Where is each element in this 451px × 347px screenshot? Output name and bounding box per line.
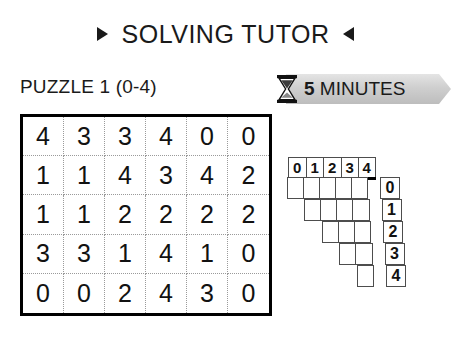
grid-cell-r0-c0[interactable]: 4 [23, 117, 64, 156]
grid-cell-r1-c4[interactable]: 4 [187, 156, 228, 195]
grid-cell-r0-c5[interactable]: 0 [228, 117, 269, 156]
tally-row-label-0: 0 [380, 177, 400, 199]
grid-cell-r3-c2[interactable]: 1 [105, 235, 146, 274]
tally-col-header-0: 0 [288, 157, 306, 177]
tally-cell-r3-c3[interactable] [339, 243, 357, 265]
tally-row-1[interactable]: 1 [306, 199, 402, 221]
tally-cell-r1-c4[interactable] [352, 199, 370, 221]
tally-cell-r2-c4[interactable] [354, 221, 372, 243]
tally-cell-r1-c2[interactable] [320, 199, 338, 221]
tally-row-label-4: 4 [386, 265, 406, 287]
grid-cell-r0-c4[interactable]: 0 [187, 117, 228, 156]
grid-cell-r3-c4[interactable]: 1 [187, 235, 228, 274]
grid-cell-r0-c2[interactable]: 3 [105, 117, 146, 156]
timer-badge: 5 MINUTES [274, 74, 451, 104]
grid-cell-r2-c1[interactable]: 1 [64, 195, 105, 234]
tally-cell-r4-c4[interactable] [357, 265, 375, 287]
tally-row-label-1: 1 [382, 199, 402, 221]
triangle-right-icon [97, 27, 108, 41]
tally-row-2[interactable]: 2 [323, 221, 403, 243]
page-header: SOLVING TUTOR [0, 17, 451, 51]
puzzle-grid[interactable]: 433400114342112222331410002430 [20, 114, 272, 316]
grid-cell-r2-c2[interactable]: 2 [105, 195, 146, 234]
grid-cell-r2-c0[interactable]: 1 [23, 195, 64, 234]
tally-cell-r0-c2[interactable] [319, 177, 337, 199]
grid-cell-r0-c3[interactable]: 4 [146, 117, 187, 156]
tally-col-header-3: 3 [341, 157, 359, 177]
grid-cell-r1-c5[interactable]: 2 [228, 156, 269, 195]
grid-cell-r4-c1[interactable]: 0 [64, 274, 105, 313]
timer-value: 5 [304, 78, 315, 99]
tally-cell-r0-c4[interactable] [351, 177, 369, 199]
grid-cell-r4-c5[interactable]: 0 [228, 274, 269, 313]
tally-cell-r2-c2[interactable] [322, 221, 340, 243]
timer-text: 5 MINUTES [304, 78, 405, 100]
timer-unit: MINUTES [320, 78, 406, 99]
grid-cell-r1-c3[interactable]: 3 [146, 156, 187, 195]
tally-col-header-2: 2 [323, 157, 341, 177]
tally-cell-r0-c1[interactable] [303, 177, 321, 199]
tally-col-header-4: 4 [358, 157, 376, 177]
grid-cell-r1-c2[interactable]: 4 [105, 156, 146, 195]
puzzle-label: PUZZLE 1 (0-4) [20, 76, 157, 98]
tally-col-header-1: 1 [306, 157, 324, 177]
tally-cell-r0-c0[interactable] [287, 177, 305, 199]
grid-cell-r0-c1[interactable]: 3 [64, 117, 105, 156]
tally-row-label-3: 3 [385, 243, 405, 265]
tally-cell-r3-c4[interactable] [355, 243, 373, 265]
grid-cell-r2-c3[interactable]: 2 [146, 195, 187, 234]
grid-cell-r3-c3[interactable]: 4 [146, 235, 187, 274]
grid-cell-r4-c2[interactable]: 2 [105, 274, 146, 313]
tally-row-3[interactable]: 3 [341, 243, 405, 265]
grid-cell-r3-c0[interactable]: 3 [23, 235, 64, 274]
tally-cell-r1-c1[interactable] [304, 199, 322, 221]
grid-cell-r4-c4[interactable]: 3 [187, 274, 228, 313]
tally-cell-r0-c3[interactable] [335, 177, 353, 199]
tally-cell-r1-c3[interactable] [336, 199, 354, 221]
grid-cell-r4-c3[interactable]: 4 [146, 274, 187, 313]
tally-cell-r2-c3[interactable] [338, 221, 356, 243]
tally-row-4[interactable]: 4 [358, 265, 406, 287]
grid-cell-r3-c5[interactable]: 0 [228, 235, 269, 274]
tally-row-label-2: 2 [383, 221, 403, 243]
domino-tally-table[interactable]: 01234 01234 [288, 157, 428, 292]
grid-cell-r2-c5[interactable]: 2 [228, 195, 269, 234]
grid-cell-r1-c1[interactable]: 1 [64, 156, 105, 195]
grid-cell-r3-c1[interactable]: 3 [64, 235, 105, 274]
grid-cell-r2-c4[interactable]: 2 [187, 195, 228, 234]
grid-cell-r1-c0[interactable]: 1 [23, 156, 64, 195]
tally-row-0[interactable]: 0 [288, 177, 400, 199]
grid-cell-r4-c0[interactable]: 0 [23, 274, 64, 313]
triangle-left-icon [343, 27, 354, 41]
page-title: SOLVING TUTOR [122, 20, 330, 49]
hourglass-icon [276, 75, 298, 103]
